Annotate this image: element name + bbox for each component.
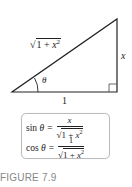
- formula-box: sin θ = x √1 + x2 cos θ = 1 √1 + x2: [21, 113, 110, 159]
- radicand: 1 + x2: [36, 38, 62, 50]
- sin-numerator: x: [68, 116, 72, 126]
- cos-formula: cos θ = 1 √1 + x2: [26, 136, 84, 160]
- sin-function-label: sin θ: [26, 123, 44, 133]
- hypotenuse-label: √1 + x2: [30, 38, 61, 50]
- right-triangle-diagram: √1 + x2 x θ 1: [0, 0, 132, 110]
- equals-sign: =: [49, 143, 54, 153]
- angle-label: θ: [42, 76, 46, 85]
- triangle-shape: [0, 0, 132, 110]
- opposite-side-label: x: [121, 51, 125, 61]
- equals-sign: =: [47, 123, 52, 133]
- adjacent-side-label: 1: [62, 96, 67, 106]
- cos-denominator: √1 + x2: [58, 146, 84, 160]
- cos-function-label: cos θ: [26, 143, 46, 153]
- cos-fraction: 1 √1 + x2: [58, 136, 84, 160]
- cos-numerator: 1: [69, 136, 74, 146]
- triangle-outline: [12, 19, 117, 92]
- figure-caption: FIGURE 7.9: [0, 172, 56, 183]
- angle-arc-icon: [35, 78, 39, 92]
- right-angle-marker-icon: [109, 84, 117, 92]
